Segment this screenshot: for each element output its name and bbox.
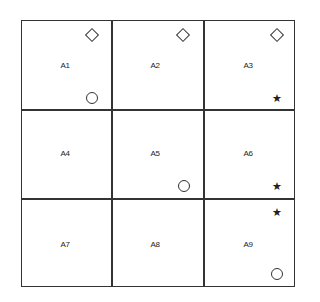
circle-icon: [271, 268, 283, 280]
cell-label-a1: A1: [60, 61, 69, 70]
cell-label-a6: A6: [243, 149, 252, 158]
cell-label-a7: A7: [60, 240, 69, 249]
grid-divider-vertical: [203, 20, 205, 287]
grid-divider-horizontal: [21, 109, 295, 111]
circle-icon: [178, 180, 190, 192]
star-icon: ★: [272, 207, 282, 218]
star-icon: ★: [272, 181, 282, 192]
grid-divider-horizontal: [21, 198, 295, 200]
grid-divider-vertical: [111, 20, 113, 287]
cell-label-a9: A9: [243, 240, 252, 249]
circle-icon: [86, 92, 98, 104]
cell-label-a8: A8: [150, 240, 159, 249]
cell-label-a4: A4: [60, 149, 69, 158]
cell-label-a2: A2: [150, 61, 159, 70]
star-icon: ★: [272, 93, 282, 104]
cell-label-a5: A5: [150, 149, 159, 158]
cell-label-a3: A3: [243, 61, 252, 70]
